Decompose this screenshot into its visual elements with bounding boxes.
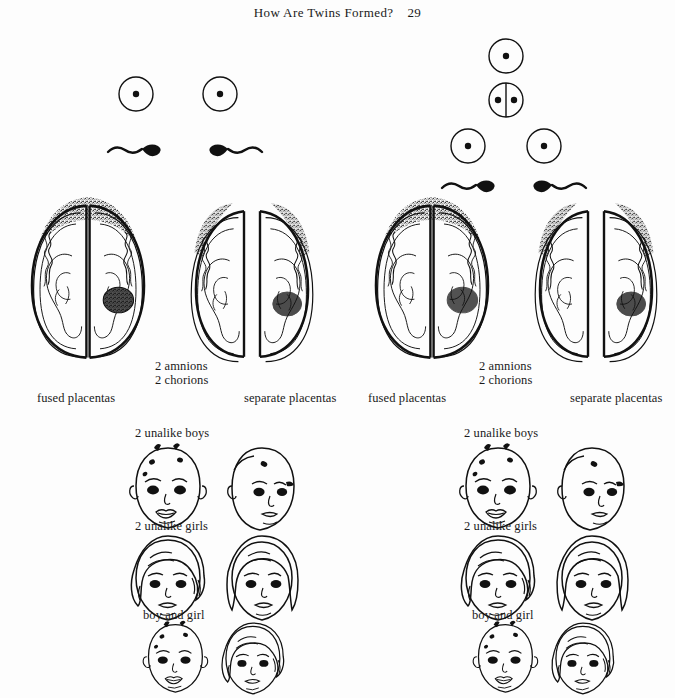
page-header: How Are Twins Formed?29 — [0, 5, 675, 21]
placenta-mass — [617, 292, 646, 316]
gamete-group-fraternal — [100, 66, 270, 176]
nucleus-icon — [133, 91, 139, 97]
placenta-mass — [273, 292, 302, 316]
label-chorions-left: 2 chorions — [155, 373, 208, 388]
uterus-fused-placentas-identical — [352, 196, 512, 364]
baby-boy-face — [130, 443, 207, 528]
nucleus-icon — [217, 91, 223, 97]
baby-girl-face — [557, 536, 628, 620]
page-title: How Are Twins Formed? — [254, 5, 394, 20]
baby-girl-face — [227, 536, 298, 620]
label-separate-placentas-left: separate placentas — [244, 391, 336, 406]
label-chorions-right: 2 chorions — [479, 373, 532, 388]
face-pair-boy-girl-left — [120, 618, 310, 698]
nucleus-icon — [511, 97, 517, 103]
sperm-icon — [442, 181, 495, 193]
nucleus-icon — [503, 53, 509, 59]
label-amnions-left: 2 amnions — [155, 359, 208, 374]
label-fused-placentas-right: fused placentas — [368, 391, 446, 406]
sperm-icon — [108, 145, 161, 157]
baby-girl-face — [552, 623, 614, 694]
gamete-group-identical — [440, 28, 620, 178]
uterus-separate-placentas-fraternal — [176, 200, 328, 364]
baby-boy-face — [143, 621, 207, 692]
uterus-separate-placentas-identical — [520, 200, 672, 364]
uterus-fused-placentas-fraternal — [8, 196, 168, 364]
page-number: 29 — [407, 5, 421, 20]
baby-boy-face — [228, 448, 294, 530]
baby-boy-face — [460, 443, 537, 528]
figure-page: How Are Twins Formed?29 — [0, 0, 675, 698]
nucleus-icon — [541, 143, 547, 149]
face-pair-boy-girl-right — [450, 618, 640, 698]
nucleus-icon — [495, 97, 501, 103]
placenta-mass — [447, 287, 477, 313]
outcome-label-boys-right: 2 unalike boys — [464, 426, 538, 441]
label-amnions-right: 2 amnions — [479, 359, 532, 374]
label-separate-placentas-right: separate placentas — [570, 391, 662, 406]
baby-boy-face — [473, 621, 537, 692]
sperm-icon — [209, 145, 262, 157]
outcome-label-boys-left: 2 unalike boys — [135, 426, 209, 441]
nucleus-icon — [465, 143, 471, 149]
baby-boy-face — [558, 448, 624, 530]
label-fused-placentas-left: fused placentas — [37, 391, 115, 406]
sperm-icon — [533, 181, 586, 193]
baby-girl-face — [222, 623, 284, 694]
